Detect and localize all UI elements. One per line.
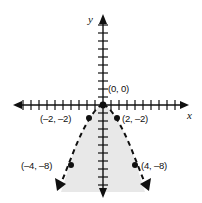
point-label-left-upper: (–2, –2) xyxy=(40,114,71,124)
point-right-lower xyxy=(132,162,138,168)
point-label-right-lower: (4, –8) xyxy=(141,161,167,171)
point-left-lower xyxy=(68,162,74,168)
coordinate-plane-figure: y x (0, 0) (–2, –2) (2, –2) (–4, –8) (4,… xyxy=(0,0,202,203)
point-right-upper xyxy=(114,115,120,121)
point-origin xyxy=(100,102,107,109)
x-axis-label: x xyxy=(187,110,192,121)
point-label-right-upper: (2, –2) xyxy=(122,114,148,124)
origin-point-label: (0, 0) xyxy=(108,84,129,94)
point-label-left-lower: (–4, –8) xyxy=(21,161,52,171)
graph-canvas xyxy=(0,0,202,203)
y-axis-label: y xyxy=(88,14,93,25)
point-left-upper xyxy=(86,115,92,121)
